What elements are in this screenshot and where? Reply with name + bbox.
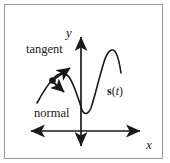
curve-label: s(t) bbox=[107, 85, 123, 97]
curve-label-close-paren: ) bbox=[119, 84, 123, 98]
y-axis-label: y bbox=[66, 26, 72, 39]
normal-vector-arrow bbox=[53, 82, 64, 92]
point-of-tangency-dot bbox=[49, 77, 56, 84]
tangent-vector-arrow bbox=[53, 68, 70, 80]
x-axis-label: x bbox=[146, 138, 152, 151]
figure-root: tangent normal s(t) y x bbox=[0, 0, 170, 163]
diagram-canvas bbox=[0, 0, 170, 163]
normal-label: normal bbox=[34, 107, 69, 120]
tangent-label: tangent bbox=[26, 43, 63, 56]
